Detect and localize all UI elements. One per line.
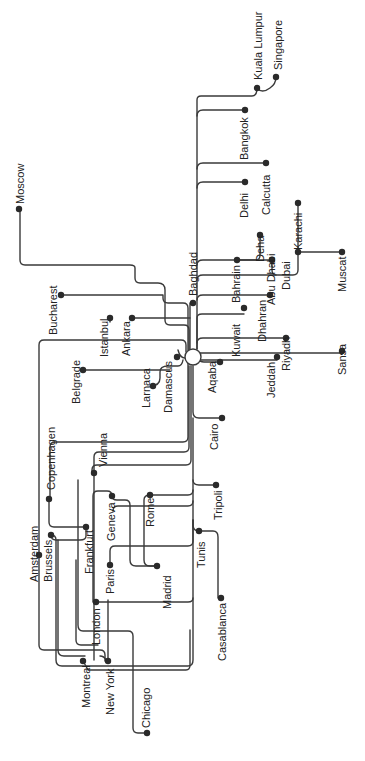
city-label: Paris — [104, 568, 116, 594]
city-label: Muscat — [336, 257, 348, 292]
city-label: Abu Dhabi — [265, 254, 277, 305]
city-node-kuwait[interactable] — [241, 305, 247, 311]
city-label: Dhahran — [256, 300, 268, 342]
city-node-london[interactable] — [93, 599, 99, 605]
city-node-paris[interactable] — [107, 562, 113, 568]
route-line — [49, 499, 86, 527]
city-label: Larnaca — [140, 367, 152, 408]
city-label: New York — [104, 668, 116, 715]
city-node-tunis[interactable] — [196, 528, 202, 534]
route-line — [197, 182, 245, 188]
city-label: Bangkok — [238, 117, 250, 160]
city-label: Aqaba — [206, 360, 218, 393]
city-label: Damascus — [162, 361, 174, 413]
city-node-calcutta[interactable] — [263, 160, 269, 166]
city-label: London — [90, 608, 102, 645]
city-label: Frankfurt — [83, 530, 95, 574]
city-labels: Kuala LumpurSingaporeBangkokCalcuttaDelh… — [14, 11, 348, 728]
city-node-geneva[interactable] — [109, 493, 115, 499]
city-label: Dubai — [280, 261, 292, 290]
city-node-delhi[interactable] — [242, 179, 248, 185]
city-label: Belgrade — [70, 360, 82, 404]
city-node-moscow[interactable] — [16, 206, 22, 212]
city-node-karachi[interactable] — [295, 200, 301, 206]
route-line — [150, 480, 193, 495]
city-node-chicago[interactable] — [144, 730, 150, 736]
city-label: Vienna — [97, 432, 109, 467]
route-lines — [20, 77, 342, 733]
city-label: Chicago — [140, 688, 152, 728]
city-node-montreal[interactable] — [80, 658, 86, 664]
city-node-kuala-lumpur[interactable] — [254, 85, 260, 91]
city-label: Baghdad — [187, 252, 199, 296]
city-label: Bucharest — [47, 285, 59, 335]
hub-node-amman[interactable] — [185, 349, 201, 365]
route-line — [58, 540, 85, 656]
city-node-bangkok[interactable] — [242, 107, 248, 113]
city-node-muscat[interactable] — [339, 249, 345, 255]
city-node-brussels[interactable] — [48, 532, 54, 538]
city-node-vienna[interactable] — [91, 470, 97, 476]
city-label: Ankara — [120, 320, 132, 356]
city-node-rome[interactable] — [147, 492, 153, 498]
city-label: Copenhagen — [45, 427, 57, 490]
city-label: Amsterdam — [28, 526, 40, 582]
city-label: Istanbul — [98, 318, 110, 357]
route-line — [96, 598, 193, 602]
city-node-bahrain[interactable] — [234, 257, 240, 263]
city-label: Riyadh — [280, 337, 292, 371]
city-node-singapore[interactable] — [273, 74, 279, 80]
city-label: Karachi — [292, 213, 304, 250]
city-label: Montreal — [80, 665, 92, 708]
city-node-cairo[interactable] — [219, 415, 225, 421]
city-node-baghdad[interactable] — [190, 300, 196, 306]
city-label: Geneva — [105, 502, 117, 541]
city-label: Jeddah — [265, 362, 277, 398]
city-label: Tunis — [195, 541, 207, 568]
city-label: Casablanca — [216, 602, 228, 661]
city-node-tripoli[interactable] — [213, 482, 219, 488]
route-map-diagram: Kuala LumpurSingaporeBangkokCalcuttaDelh… — [0, 0, 365, 761]
city-label: Sansa — [336, 343, 348, 375]
route-line — [197, 110, 245, 116]
city-nodes — [16, 74, 345, 736]
city-label: Bahrain — [230, 265, 242, 303]
city-label: Tripoli — [212, 490, 224, 520]
city-node-ankara[interactable] — [129, 315, 135, 321]
city-label: Delhi — [238, 193, 250, 218]
city-label: Kuwait — [230, 324, 242, 357]
city-node-frankfurt[interactable] — [83, 524, 89, 530]
city-label: Cairo — [208, 424, 220, 450]
city-label: Rome — [144, 498, 156, 527]
city-label: Kuala Lumpur — [252, 11, 264, 80]
city-label: Brussels — [42, 539, 54, 582]
city-node-damascus[interactable] — [174, 354, 180, 360]
city-node-new-york[interactable] — [105, 658, 111, 664]
city-label: Moscow — [14, 164, 26, 204]
route-line — [197, 163, 266, 169]
city-node-madrid[interactable] — [154, 563, 160, 569]
city-label: Madrid — [161, 575, 173, 609]
city-label: Singapore — [272, 20, 284, 70]
city-node-copenhagen[interactable] — [46, 496, 52, 502]
city-node-casablanca[interactable] — [218, 595, 224, 601]
city-label: Calcutta — [260, 174, 272, 215]
